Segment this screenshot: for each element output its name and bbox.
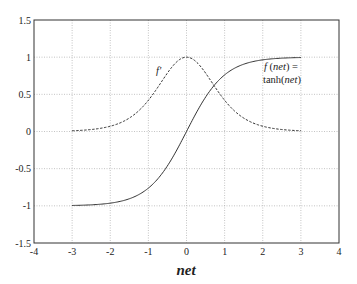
tanh-func: tanh( [263, 74, 285, 86]
net-var: net [273, 61, 287, 72]
f-net-label-line2: tanh(net) [263, 74, 301, 86]
x-tick-label: -1 [144, 246, 152, 257]
y-tick-label: -1.5 [15, 238, 31, 249]
f-net-label-line1: f (net) = [264, 61, 298, 73]
equals: ) = [286, 61, 298, 73]
x-tick-label: 1 [222, 246, 227, 257]
x-tick-label: -3 [68, 246, 76, 257]
y-tick-label: 1 [26, 52, 31, 63]
x-tick-label: -4 [30, 246, 38, 257]
x-tick-label: 2 [260, 246, 265, 257]
fprime-label: f' [156, 65, 162, 76]
paren-close: ) [297, 74, 301, 86]
tanh-chart: -4-3-2-101234-1.5-1-0.500.511.5 f' f (ne… [0, 0, 357, 284]
y-tick-label: -1 [23, 200, 31, 211]
y-tick-label: 0 [26, 126, 31, 137]
net-var: net [285, 74, 299, 85]
y-tick-label: -0.5 [15, 163, 31, 174]
x-axis-label: net [176, 262, 196, 278]
y-tick-label: 1.5 [19, 15, 32, 26]
x-tick-label: 4 [337, 246, 342, 257]
x-tick-label: 3 [298, 246, 303, 257]
tick-labels: -4-3-2-101234-1.5-1-0.500.511.5 [15, 15, 341, 258]
y-tick-label: 0.5 [19, 89, 32, 100]
x-tick-label: -2 [106, 246, 114, 257]
x-tick-label: 0 [184, 246, 189, 257]
